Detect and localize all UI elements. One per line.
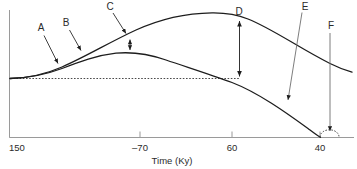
dotted-arc-shape [320, 130, 339, 137]
x-tick-label-60: 60 [227, 142, 238, 153]
callout-c-leader-arrow [113, 13, 126, 34]
callout-label-a: A [38, 22, 45, 33]
callout-label-f: F [328, 20, 334, 31]
callout-label-c: C [106, 1, 113, 12]
callout-label-b: B [63, 17, 70, 28]
lower-curve-path [10, 53, 321, 138]
figure-canvas: 150 –70 60 40 Time (Ky) A B C D E F [0, 0, 357, 169]
callout-label-e: E [302, 1, 309, 12]
callout-a-leader-arrow [44, 36, 58, 64]
axes-group [10, 10, 355, 138]
x-tick-label-150: 150 [9, 142, 25, 153]
callout-b-leader-arrow [70, 30, 82, 51]
callout-label-d: D [235, 6, 242, 17]
figure-container: 150 –70 60 40 Time (Ky) A B C D E F [0, 0, 357, 169]
x-tick-label-minus70: –70 [132, 142, 148, 153]
x-tick-label-40: 40 [315, 142, 326, 153]
x-axis-title: Time (Ky) [152, 155, 193, 166]
callout-e-leader-arrow [288, 13, 302, 101]
